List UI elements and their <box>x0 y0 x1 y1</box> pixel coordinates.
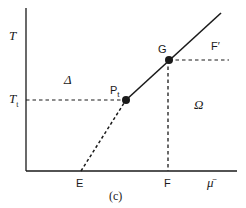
y-axis-label: T <box>9 29 16 42</box>
figure-caption: (c) <box>109 190 122 202</box>
point-f-prime-label: F′ <box>211 41 220 52</box>
e-pt-dashed-line <box>81 100 126 171</box>
point-pt-label: Pt <box>110 85 120 99</box>
point-pt-marker <box>122 96 130 104</box>
region-delta-label: Δ <box>64 73 72 86</box>
point-f-label: F <box>164 178 171 189</box>
region-omega-label: Ω <box>194 98 203 111</box>
tt-tick-label: Tt <box>9 92 18 109</box>
point-g-marker <box>165 56 173 64</box>
point-e-label: E <box>76 178 83 189</box>
point-g-label: G <box>158 44 167 55</box>
x-axis-label: μ̄ <box>207 176 214 189</box>
coexistence-line <box>126 13 221 100</box>
